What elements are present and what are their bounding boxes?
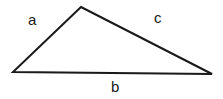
side-label-a: a bbox=[28, 12, 36, 27]
triangle-figure: a c b bbox=[0, 0, 223, 99]
triangle-outline bbox=[13, 7, 212, 74]
side-label-b: b bbox=[111, 79, 119, 94]
side-label-c: c bbox=[154, 10, 162, 25]
